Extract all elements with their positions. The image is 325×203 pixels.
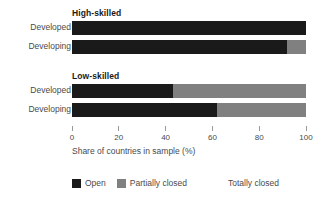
bar-segment-open [72,84,173,98]
x-axis-title: Share of countries in sample (%) [72,146,195,156]
bar-row: Developed [0,21,325,35]
row-label: Developing [0,104,71,114]
x-axis: 020406080100 [72,126,306,148]
bar-row: Developed [0,84,325,98]
legend-item-open: Open [72,178,106,188]
bar-segment-partially-closed [287,40,306,54]
bar-track [72,21,306,35]
x-axis-tick [306,126,307,131]
x-axis-tick-label: 0 [70,133,74,142]
bar-segment-partially-closed [173,84,306,98]
row-label: Developing [0,41,71,51]
x-axis-tick [165,126,166,131]
x-axis-tick [259,126,260,131]
legend-swatch-partially-closed-icon [117,179,126,188]
x-axis-tick-label: 60 [208,133,217,142]
x-axis-tick [212,126,213,131]
x-axis-tick-label: 20 [114,133,123,142]
bar-segment-open [72,40,287,54]
bar-segment-open [72,103,217,117]
x-axis-tick-label: 100 [299,133,312,142]
group-title-high-skilled: High-skilled [72,8,121,18]
bar-track [72,40,306,54]
bar-segment-partially-closed [217,103,306,117]
bar-track [72,84,306,98]
legend: Open Partially closed Totally closed [72,178,279,188]
row-label: Developed [0,85,71,95]
x-axis-tick [118,126,119,131]
x-axis-tick [72,126,73,131]
bar-row: Developing [0,40,325,54]
bar-row: Developing [0,103,325,117]
legend-label: Totally closed [228,178,279,188]
bar-segment-open [72,21,306,35]
row-label: Developed [0,22,71,32]
stacked-bar-chart: High-skilled Developed Developing Low-sk… [0,0,325,203]
legend-swatch-totally-closed-icon [215,179,224,188]
x-axis-tick-label: 80 [255,133,264,142]
legend-label: Partially closed [130,178,187,188]
legend-swatch-open-icon [72,179,81,188]
group-title-low-skilled: Low-skilled [72,71,119,81]
legend-label: Open [85,178,106,188]
legend-item-totally-closed: Totally closed [215,178,279,188]
legend-item-partially-closed: Partially closed [117,178,187,188]
bar-track [72,103,306,117]
x-axis-tick-label: 40 [161,133,170,142]
